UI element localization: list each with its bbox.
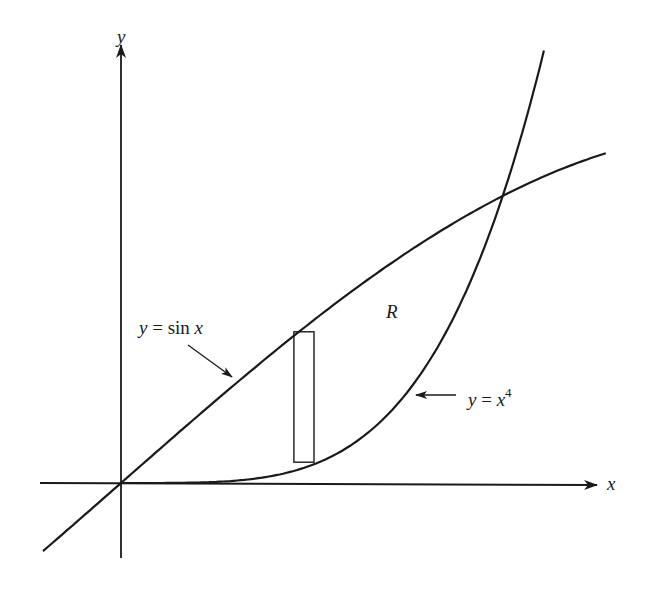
sin-label-eq: = <box>147 317 167 338</box>
quartic-label-base: x <box>497 389 505 410</box>
sin-label-arrow <box>188 345 232 377</box>
y-axis-label: y <box>117 27 125 46</box>
region-label: R <box>386 302 398 321</box>
quartic-curve-label: y = x4 <box>468 386 512 409</box>
x-axis-label: x <box>607 474 615 493</box>
quartic-label-eq: = <box>476 389 496 410</box>
sin-label-var: x <box>195 317 203 338</box>
quartic-curve <box>121 51 544 483</box>
representative-rectangle <box>294 332 314 462</box>
sin-curve-label: y = sin x <box>139 318 203 337</box>
region-diagram <box>0 0 651 589</box>
sin-curve <box>43 153 606 551</box>
quartic-label-exp: 4 <box>505 385 512 400</box>
sin-label-fn: sin <box>168 317 195 338</box>
